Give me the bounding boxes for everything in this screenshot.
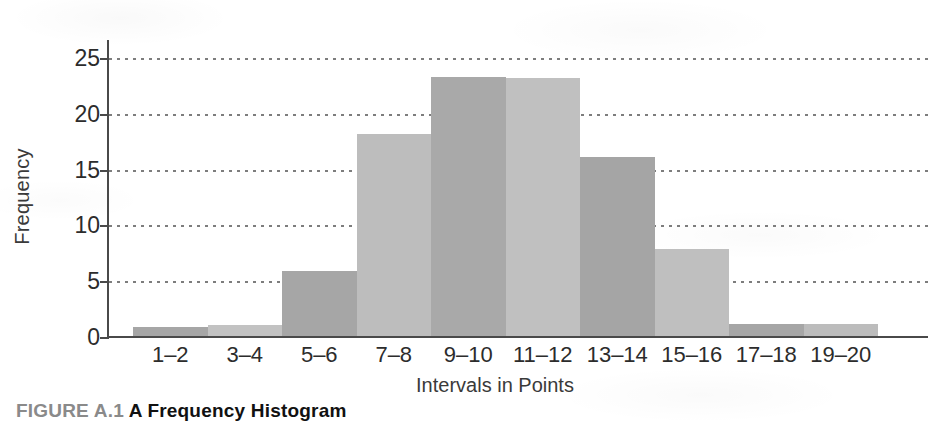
bar bbox=[208, 325, 283, 336]
bar bbox=[506, 78, 581, 336]
bar-series bbox=[133, 40, 928, 336]
x-axis-line bbox=[107, 336, 928, 338]
bar bbox=[804, 324, 879, 337]
frequency-histogram-chart: Frequency 0510152025 1–23–45–67–89–1011–… bbox=[0, 0, 950, 400]
bar bbox=[282, 271, 357, 336]
y-axis-tick-labels: 0510152025 bbox=[48, 0, 100, 400]
bar bbox=[580, 157, 655, 336]
y-axis-tickmark bbox=[100, 58, 109, 60]
bar bbox=[729, 324, 804, 337]
x-axis-title-text: Intervals in Points bbox=[416, 374, 574, 396]
y-axis-tick-label: 15 bbox=[54, 159, 100, 182]
y-axis-line bbox=[107, 40, 109, 338]
x-axis-tick-label: 19–20 bbox=[784, 344, 899, 366]
figure-number: FIGURE A.1 bbox=[16, 400, 124, 421]
y-axis-tickmark bbox=[100, 281, 109, 283]
y-axis-tickmark bbox=[100, 225, 109, 227]
bar bbox=[357, 134, 432, 336]
bar bbox=[431, 77, 506, 336]
bar bbox=[655, 249, 730, 336]
y-axis-title: Frequency bbox=[11, 137, 34, 257]
y-axis-tick-label: 0 bbox=[54, 326, 100, 349]
plot-area bbox=[107, 40, 928, 338]
y-axis-tick-label: 25 bbox=[54, 47, 100, 70]
figure-title: A Frequency Histogram bbox=[129, 400, 347, 421]
y-axis-tick-label: 20 bbox=[54, 103, 100, 126]
bar bbox=[133, 327, 208, 336]
y-axis-tick-label: 10 bbox=[54, 214, 100, 237]
x-axis-tick-labels: 1–23–45–67–89–1011–1213–1415–1617–1819–2… bbox=[107, 344, 928, 374]
x-axis-title: Intervals in Points bbox=[0, 374, 950, 397]
y-axis-tickmark bbox=[100, 337, 109, 339]
figure-caption: FIGURE A.1 A Frequency Histogram bbox=[16, 400, 936, 422]
y-axis-tickmark bbox=[100, 170, 109, 172]
y-axis-tickmark bbox=[100, 114, 109, 116]
y-axis-tick-label: 5 bbox=[54, 270, 100, 293]
